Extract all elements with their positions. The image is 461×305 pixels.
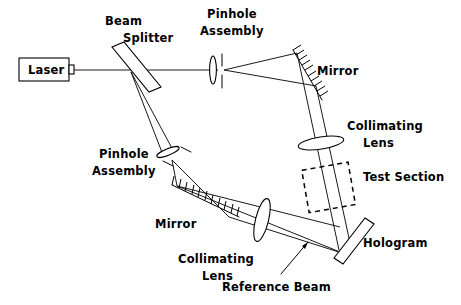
mirror-bottom-surface (172, 185, 239, 217)
mirror-bottom-label: Mirror (155, 217, 197, 231)
pinhole-left-aperture-upper (181, 147, 191, 152)
beam-splitter-plate (112, 42, 161, 92)
pinhole-assembly-top (210, 54, 222, 88)
collimating-lens-right-body (297, 133, 344, 152)
collimating-lens-bottom (250, 197, 273, 243)
collimating-lens-right-label-line1: Collimating (347, 119, 423, 133)
beam-object-left-edge (297, 53, 339, 250)
pinhole-assembly-top-label-line2: Assembly (200, 24, 264, 38)
pinhole-assembly-left-label-line1: Pinhole (99, 147, 149, 161)
pinhole-assembly-left (156, 145, 191, 166)
test-section-region (302, 162, 356, 213)
laser-output-port (69, 65, 74, 74)
collimating-lens-right-label-line2: Lens (363, 136, 394, 150)
beam-reference-lower (229, 217, 345, 254)
test-section (302, 162, 356, 213)
pinhole-assembly-left-label-line2: Assembly (92, 164, 156, 178)
beam-splitter-label-line2: Splitter (123, 31, 174, 45)
beam-splitter (112, 42, 161, 92)
collimating-lens-bottom-label-line1: Collimating (178, 252, 254, 266)
pinhole-top-lens (210, 56, 217, 84)
pinhole-left-aperture-lower (163, 161, 173, 166)
beam-pinhole-top-upper (224, 53, 297, 70)
pinhole-assembly-top-label-line1: Pinhole (207, 7, 257, 21)
mirror-bottom-hatching (172, 176, 239, 216)
hologram-label: Hologram (363, 236, 428, 250)
mirror-top-label: Mirror (317, 64, 359, 78)
mirror-bottom (172, 176, 239, 217)
collimating-lens-bottom-body (250, 197, 273, 243)
optical-diagram: Laser Beam Splitter Pinhole Assembly Mir… (0, 0, 461, 305)
beam-splitter-label-line1: Beam (105, 14, 142, 28)
collimating-lens-right (297, 133, 344, 152)
optics-schematic: Laser Beam Splitter Pinhole Assembly Mir… (0, 0, 461, 305)
test-section-label: Test Section (363, 170, 444, 184)
reference-beam-pointer (281, 242, 308, 274)
laser-label: Laser (28, 63, 65, 77)
reference-beam-label: Reference Beam (222, 280, 331, 294)
